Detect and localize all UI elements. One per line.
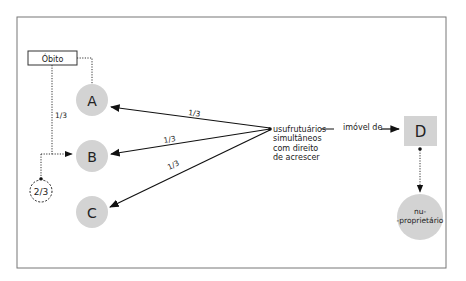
usufruct-diagram: Óbito 1/3 2/3 A B C 1/3 1/3 1/3 usufrutu… — [0, 0, 466, 281]
share-circle: 2/3 — [30, 180, 52, 202]
node-d: D — [404, 116, 437, 146]
hub-label: usufrutuários simultâneos com direito de… — [273, 125, 326, 163]
node-a-label: A — [87, 93, 97, 109]
obito-box: Óbito — [28, 51, 77, 65]
node-c-label: C — [87, 205, 97, 221]
node-c: C — [76, 196, 108, 228]
obito-label: Óbito — [42, 53, 64, 64]
node-d-label: D — [415, 123, 427, 141]
imovel-label: imóvel de — [343, 122, 382, 132]
hub-line-3: com direito — [273, 144, 318, 153]
hub-line-2: simultâneos — [273, 134, 322, 143]
hub-line-4: de acrescer — [273, 153, 320, 162]
nu-proprietario-line-2: -proprietário — [397, 216, 444, 225]
node-a: A — [76, 84, 108, 116]
hub-line-1: usufrutuários — [273, 125, 326, 134]
diagram-frame — [17, 17, 446, 268]
node-b-label: B — [87, 149, 97, 165]
edge-a-share: 1/3 — [188, 108, 201, 119]
share-circle-label: 2/3 — [34, 187, 48, 197]
nu-proprietario-line-1: nu- — [414, 207, 427, 216]
obito-to-b-share: 1/3 — [55, 111, 67, 120]
node-b: B — [76, 140, 108, 172]
edge-b-share: 1/3 — [163, 134, 177, 145]
